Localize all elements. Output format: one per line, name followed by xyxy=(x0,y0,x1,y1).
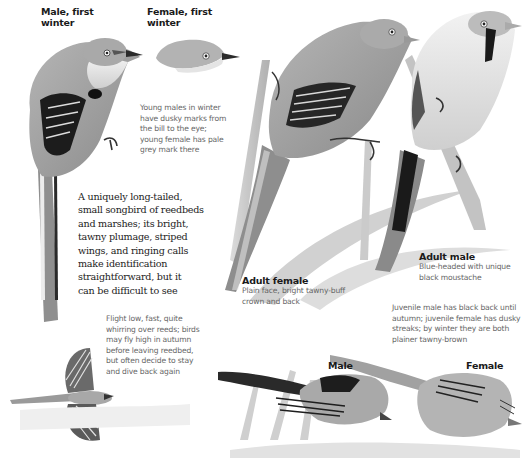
label-female-first-winter: Female, first winter xyxy=(147,6,212,28)
label-adult-male: Adult male xyxy=(419,251,511,262)
caption-adult-male: Blue-headed with unique black moustache xyxy=(419,262,511,283)
caption-juvenile: Juvenile male has black back until autum… xyxy=(392,303,520,345)
caption-adult-female: Plain face, bright tawny-buff crown and … xyxy=(242,286,345,307)
adult-male-block: Adult male Blue-headed with unique black… xyxy=(419,251,511,283)
intro-paragraph: A uniquely long-tailed, small songbird o… xyxy=(78,190,204,297)
bird-female-first-winter-head xyxy=(156,40,240,73)
caption-young-winter: Young males in winter have dusky marks f… xyxy=(140,103,226,156)
label-male-first-winter: Male, first winter xyxy=(41,6,94,28)
label-adult-female: Adult female xyxy=(242,275,345,286)
label-bottom-male: Male xyxy=(328,360,353,371)
caption-flight: Flight low, fast, quite whirring over re… xyxy=(106,314,200,378)
adult-female-block: Adult female Plain face, bright tawny-bu… xyxy=(242,275,345,307)
label-bottom-female: Female xyxy=(466,360,503,371)
